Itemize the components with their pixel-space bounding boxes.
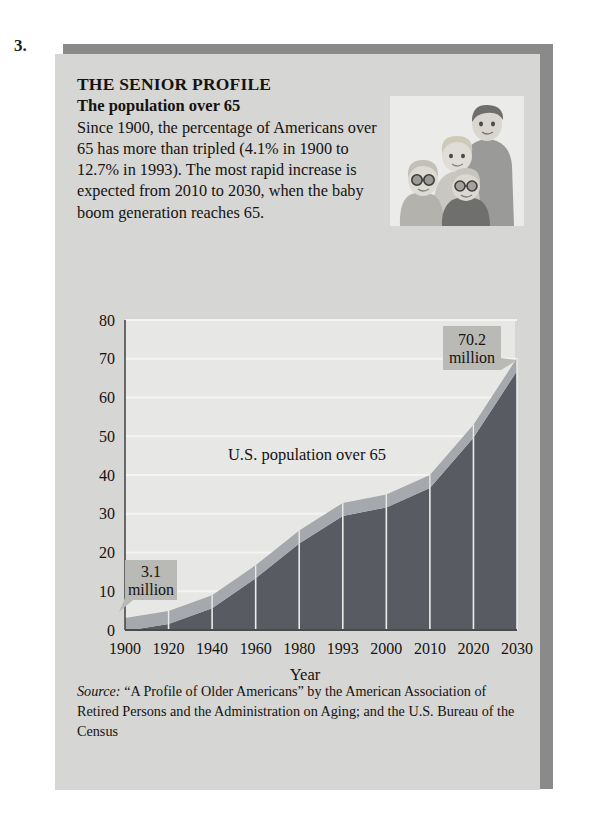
first-callout-line1: 3.1 [141, 563, 161, 580]
x-axis-tick-labels: 1900192019401960198019932000201020202030 [109, 640, 533, 657]
y-tick-label: 20 [99, 544, 115, 561]
x-tick-label: 2030 [501, 640, 533, 657]
source-label: Source: [77, 683, 121, 699]
y-tick-label: 70 [99, 350, 115, 367]
senior-profile-panel: THE SENIOR PROFILE The population over 6… [55, 54, 540, 790]
x-tick-label: 1900 [109, 640, 141, 657]
page-title: THE SENIOR PROFILE [77, 74, 377, 94]
last-callout-line2: million [449, 349, 495, 366]
series-label: U.S. population over 65 [228, 445, 386, 464]
y-tick-label: 30 [99, 505, 115, 522]
header-text-block: THE SENIOR PROFILE The population over 6… [77, 74, 377, 223]
x-tick-label: 1920 [153, 640, 185, 657]
x-tick-label: 1960 [240, 640, 272, 657]
y-tick-label: 60 [99, 389, 115, 406]
subtitle: The population over 65 [77, 96, 377, 116]
source-note: Source: “A Profile of Older Americans” b… [77, 681, 527, 741]
exercise-number: 3. [14, 36, 27, 56]
population-area-chart: 01020304050607080 1900192019401960198019… [55, 312, 540, 712]
x-tick-label: 1993 [327, 640, 359, 657]
source-text: “A Profile of Older Americans” by the Am… [77, 683, 514, 739]
y-axis-tick-labels: 01020304050607080 [99, 312, 115, 639]
first-callout-line2: million [128, 581, 174, 598]
y-tick-label: 10 [99, 583, 115, 600]
photo-illustration [390, 96, 524, 226]
y-tick-label: 80 [99, 312, 115, 329]
y-tick-label: 40 [99, 467, 115, 484]
chart-canvas: 01020304050607080 1900192019401960198019… [55, 312, 540, 712]
last-callout-line1: 70.2 [458, 331, 486, 348]
x-tick-label: 2020 [457, 640, 489, 657]
x-tick-label: 1980 [283, 640, 315, 657]
older-adults-photo [390, 96, 524, 226]
x-tick-label: 2000 [370, 640, 402, 657]
y-tick-label: 0 [107, 622, 115, 639]
x-tick-label: 1940 [196, 640, 228, 657]
y-tick-label: 50 [99, 428, 115, 445]
body-paragraph: Since 1900, the percentage of Americans … [77, 117, 377, 223]
x-tick-label: 2010 [414, 640, 446, 657]
